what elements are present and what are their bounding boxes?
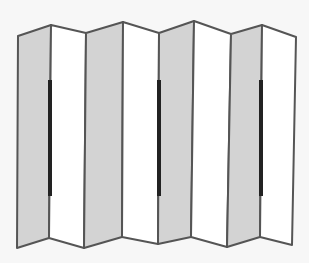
folding-screen-figure xyxy=(0,0,309,263)
screen-panel-8 xyxy=(260,25,296,245)
screen-handle-1 xyxy=(48,80,52,196)
folding-screen-drawing xyxy=(0,0,309,263)
screen-panel-7 xyxy=(227,25,262,247)
screen-panel-2 xyxy=(49,25,86,248)
screen-panel-4 xyxy=(122,22,159,244)
screen-handle-3 xyxy=(259,80,263,196)
screen-panel-1 xyxy=(17,25,51,248)
screen-handle-2 xyxy=(157,80,161,196)
screen-panel-5 xyxy=(158,21,194,244)
screen-panel-3 xyxy=(84,22,123,248)
screen-panel-6 xyxy=(191,21,231,247)
